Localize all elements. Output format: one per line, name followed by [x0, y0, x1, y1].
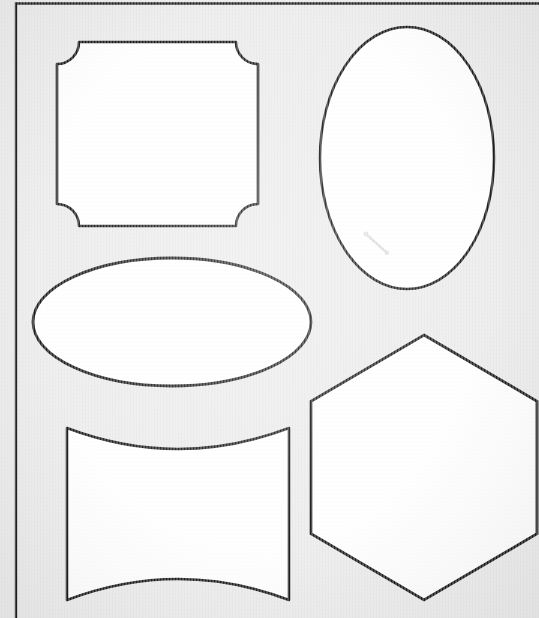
shape-concave-corner-square[interactable] — [57, 42, 258, 226]
shape-concave-barrel-square[interactable] — [67, 428, 289, 600]
shapes-canvas — [0, 0, 539, 618]
shape-horizontal-ellipse[interactable] — [33, 258, 311, 386]
shape-hexagon[interactable] — [311, 335, 537, 600]
worksheet-page — [0, 0, 539, 618]
shape-vertical-ellipse[interactable] — [320, 27, 494, 289]
